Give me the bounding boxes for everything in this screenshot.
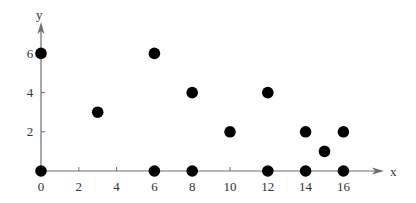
scatter-chart: x y 0246810121416 246: [0, 0, 416, 203]
y-tick-label: 2: [27, 124, 34, 139]
x-tick-label: 12: [261, 179, 274, 194]
data-point: [149, 48, 161, 60]
x-tick-label: 16: [337, 179, 351, 194]
x-tick-label: 0: [38, 179, 45, 194]
x-axis-label: x: [390, 164, 397, 179]
y-ticks: 246: [27, 46, 45, 139]
data-point: [338, 165, 350, 177]
x-tick-label: 2: [76, 179, 83, 194]
data-point: [300, 165, 312, 177]
axes: x y: [36, 7, 397, 179]
data-points: [35, 48, 349, 177]
data-point: [35, 48, 47, 60]
x-tick-label: 6: [151, 179, 158, 194]
data-point: [92, 106, 104, 118]
data-point: [224, 126, 236, 138]
y-tick-label: 6: [27, 46, 34, 61]
x-tick-label: 10: [224, 179, 237, 194]
y-axis-label: y: [36, 7, 43, 22]
data-point: [149, 165, 161, 177]
data-point: [262, 165, 274, 177]
data-point: [338, 126, 350, 138]
x-tick-label: 14: [299, 179, 313, 194]
data-point: [35, 165, 47, 177]
x-tick-label: 4: [113, 179, 120, 194]
x-tick-label: 8: [189, 179, 196, 194]
data-point: [319, 146, 331, 158]
data-point: [186, 165, 198, 177]
data-point: [300, 126, 312, 138]
data-point: [186, 87, 198, 99]
y-tick-label: 4: [27, 85, 34, 100]
data-point: [262, 87, 274, 99]
